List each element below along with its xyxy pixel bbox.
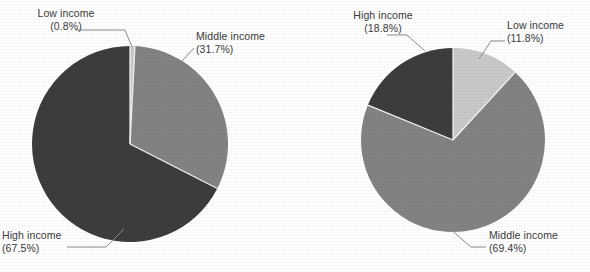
left-label-low-income-pct: (0.8%) <box>20 20 112 33</box>
left-leader-middle-income <box>182 48 194 61</box>
left-label-low-income-name: Low income <box>37 7 94 19</box>
right-label-high-income-name: High income <box>353 9 412 21</box>
left-label-middle-income: Middle income (31.7%) <box>196 30 296 56</box>
pie-chart-left: Low income (0.8%) Middle income (31.7%) … <box>0 0 295 272</box>
right-label-low-income-pct: (11.8%) <box>507 32 590 45</box>
left-label-middle-income-name: Middle income <box>196 30 265 42</box>
left-label-middle-income-pct: (31.7%) <box>196 43 296 56</box>
right-label-low-income: Low income (11.8%) <box>507 19 590 45</box>
left-label-high-income: High income (67.5%) <box>2 229 94 255</box>
right-label-high-income-pct: (18.8%) <box>337 22 429 35</box>
left-label-high-income-pct: (67.5%) <box>2 242 94 255</box>
figure-root: Low income (0.8%) Middle income (31.7%) … <box>0 0 590 272</box>
right-label-high-income: High income (18.8%) <box>337 9 429 35</box>
right-label-middle-income-pct: (69.4%) <box>489 242 587 255</box>
right-label-middle-income-name: Middle income <box>489 229 558 241</box>
left-label-low-income: Low income (0.8%) <box>20 7 112 33</box>
pie-chart-right: High income (18.8%) Low income (11.8%) M… <box>295 0 590 272</box>
left-label-high-income-name: High income <box>2 229 61 241</box>
right-label-low-income-name: Low income <box>507 19 564 31</box>
right-label-middle-income: Middle income (69.4%) <box>489 229 587 255</box>
right-leader-high-income <box>387 35 425 51</box>
